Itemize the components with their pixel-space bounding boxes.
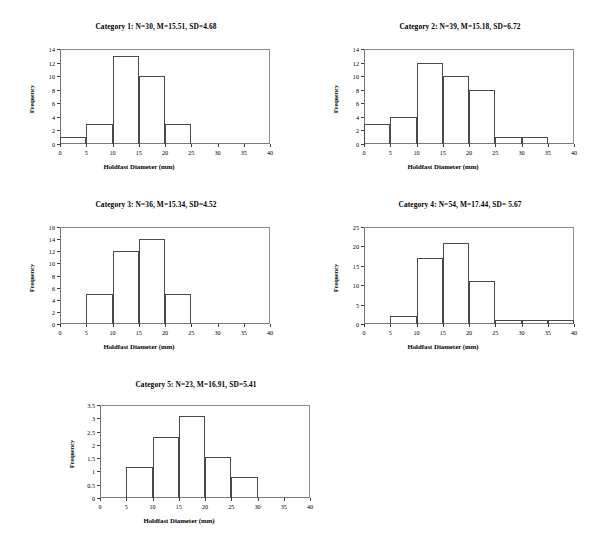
x-tick-mark xyxy=(113,144,114,147)
histogram-bar xyxy=(522,320,548,324)
y-tick-label: 10 xyxy=(25,73,55,80)
y-tick-mark xyxy=(97,445,100,446)
y-tick-mark xyxy=(361,49,364,50)
x-tick-mark xyxy=(548,324,549,327)
x-tick-mark xyxy=(179,498,180,501)
y-tick-mark xyxy=(361,103,364,104)
y-tick-label: 4 xyxy=(25,113,55,120)
x-axis-label-category-3: Holdfast Diameter (mm) xyxy=(8,343,270,350)
x-tick-label: 5 xyxy=(125,503,128,510)
y-tick-label: 0 xyxy=(25,321,55,328)
x-axis-label-category-2: Holdfast Diameter (mm) xyxy=(312,163,574,170)
histogram-bar xyxy=(179,416,205,498)
y-tick-mark xyxy=(361,285,364,286)
x-tick-mark xyxy=(522,324,523,327)
y-tick-mark xyxy=(57,227,60,228)
y-tick-label: 3 xyxy=(65,415,95,422)
y-tick-label: 16 xyxy=(25,224,55,231)
y-axis-label-category-5: Frequency xyxy=(68,439,75,467)
x-tick-label: 10 xyxy=(109,149,115,156)
y-tick-mark xyxy=(57,90,60,91)
y-tick-mark xyxy=(361,117,364,118)
plot-area-category-1: 024681012140510152025303540 xyxy=(60,49,270,144)
x-tick-label: 40 xyxy=(571,149,577,156)
x-tick-label: 10 xyxy=(413,329,419,336)
x-tick-mark xyxy=(165,324,166,327)
x-tick-mark xyxy=(153,498,154,501)
histogram-bar xyxy=(443,243,469,324)
x-axis-label-category-1: Holdfast Diameter (mm) xyxy=(8,163,270,170)
y-tick-label: 20 xyxy=(329,243,359,250)
chart-title-category-4: Category 4: N=54, M=17.44, SD= 5.67 xyxy=(312,200,608,209)
y-tick-label: 1 xyxy=(65,468,95,475)
y-tick-label: 0 xyxy=(25,141,55,148)
x-tick-label: 10 xyxy=(149,503,155,510)
x-tick-mark xyxy=(218,144,219,147)
histogram-bar xyxy=(139,76,165,144)
x-tick-label: 40 xyxy=(307,503,313,510)
x-tick-mark xyxy=(139,324,140,327)
x-tick-mark xyxy=(191,324,192,327)
x-tick-mark xyxy=(443,324,444,327)
x-tick-label: 0 xyxy=(362,149,365,156)
x-tick-mark xyxy=(310,498,311,501)
x-tick-mark xyxy=(443,144,444,147)
x-tick-label: 35 xyxy=(545,329,551,336)
x-tick-mark xyxy=(495,144,496,147)
histogram-bar xyxy=(205,457,231,498)
y-tick-label: 12 xyxy=(25,59,55,66)
y-tick-mark xyxy=(57,276,60,277)
x-tick-label: 20 xyxy=(466,329,472,336)
x-tick-label: 0 xyxy=(98,503,101,510)
histogram-bar xyxy=(231,477,257,498)
y-tick-label: 14 xyxy=(25,46,55,53)
histogram-bar xyxy=(522,137,548,144)
histogram-bar xyxy=(86,124,112,144)
y-tick-mark xyxy=(57,312,60,313)
histogram-bar xyxy=(113,251,139,324)
x-tick-mark xyxy=(218,324,219,327)
histogram-bar xyxy=(417,63,443,144)
plot-area-category-3: 02468101214160510152025303540 xyxy=(60,227,270,324)
x-tick-mark xyxy=(60,324,61,327)
x-tick-mark xyxy=(113,324,114,327)
x-axis-label-category-5: Holdfast Diameter (mm) xyxy=(48,517,310,524)
x-tick-label: 15 xyxy=(176,503,182,510)
y-tick-mark xyxy=(97,432,100,433)
x-tick-mark xyxy=(469,324,470,327)
histogram-bar xyxy=(390,117,416,144)
y-tick-mark xyxy=(57,288,60,289)
x-tick-label: 15 xyxy=(440,329,446,336)
x-tick-mark xyxy=(165,144,166,147)
x-tick-mark xyxy=(86,144,87,147)
y-tick-label: 0 xyxy=(329,321,359,328)
x-tick-label: 25 xyxy=(492,149,498,156)
chart-title-category-2: Category 2: N=39, M=15.18, SD=6.72 xyxy=(312,22,608,31)
chart-panel-category-5: Category 5: N=23, M=16.91, SD=5.4100.511… xyxy=(48,380,344,542)
x-tick-mark xyxy=(139,144,140,147)
histogram-bar xyxy=(153,437,179,498)
histogram-bar xyxy=(113,56,139,144)
y-tick-label: 5 xyxy=(329,301,359,308)
x-tick-mark xyxy=(390,144,391,147)
chart-title-category-3: Category 3: N=36, M=15.34, SD=4.52 xyxy=(8,200,304,209)
x-tick-mark xyxy=(270,144,271,147)
y-tick-label: 12 xyxy=(25,248,55,255)
x-tick-label: 25 xyxy=(188,149,194,156)
histogram-bar xyxy=(165,124,191,144)
x-tick-mark xyxy=(522,144,523,147)
x-tick-label: 30 xyxy=(214,329,220,336)
histogram-bar xyxy=(60,137,86,144)
x-tick-label: 0 xyxy=(58,149,61,156)
x-tick-mark xyxy=(495,324,496,327)
y-tick-mark xyxy=(57,117,60,118)
y-tick-label: 2 xyxy=(329,127,359,134)
x-tick-label: 30 xyxy=(518,149,524,156)
y-tick-label: 3.5 xyxy=(65,402,95,409)
y-tick-mark xyxy=(361,266,364,267)
x-tick-label: 25 xyxy=(228,503,234,510)
y-tick-label: 0 xyxy=(65,495,95,502)
histogram-bar xyxy=(469,90,495,144)
y-tick-label: 14 xyxy=(25,236,55,243)
x-tick-label: 5 xyxy=(85,329,88,336)
